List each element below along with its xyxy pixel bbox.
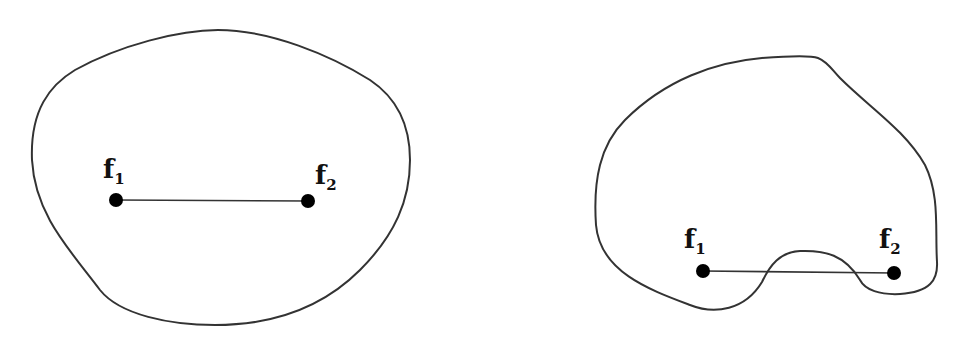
focus-dot-2	[887, 266, 901, 280]
convex-region-panel: f1 f2	[32, 30, 410, 325]
focus-label-1: f1	[684, 224, 706, 258]
focus-dot-1	[696, 264, 710, 278]
foci-segment	[116, 200, 308, 201]
diagram-canvas: f1 f2 f1 f2	[0, 0, 972, 339]
convex-region-boundary	[32, 30, 410, 325]
focus-label-2: f2	[879, 224, 901, 258]
focus-label-2: f2	[315, 160, 337, 194]
nonconvex-region-panel: f1 f2	[595, 56, 937, 310]
focus-label-1: f1	[103, 154, 125, 188]
focus-dot-2	[301, 194, 315, 208]
focus-dot-1	[109, 193, 123, 207]
foci-segment	[703, 271, 894, 273]
